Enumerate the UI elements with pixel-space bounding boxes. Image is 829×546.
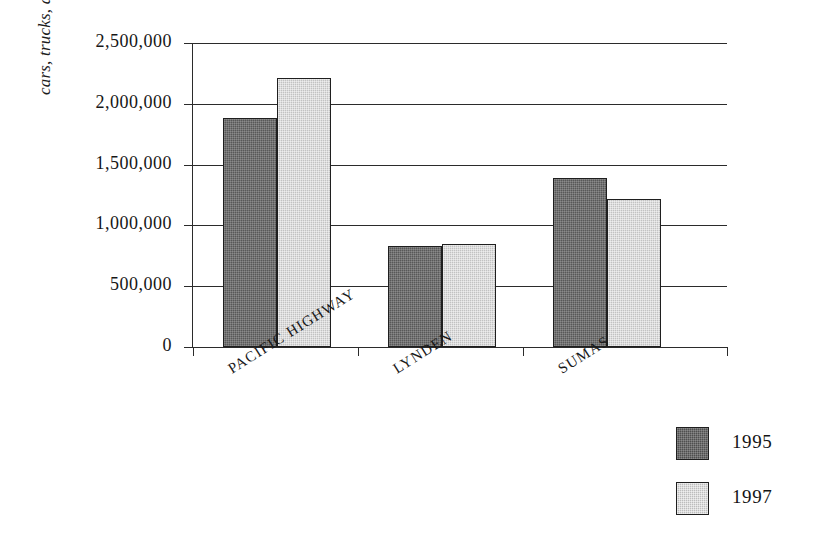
bar-1995-pacific-highway xyxy=(223,118,277,347)
bar-1997-lynden xyxy=(442,244,496,347)
bar-1995-lynden xyxy=(388,246,442,347)
x-tick-mark xyxy=(523,347,524,356)
y-tick-label: 500,000 xyxy=(110,274,172,295)
bar-1997-sumas xyxy=(607,199,661,347)
y-tick-mark xyxy=(184,286,193,287)
y-tick-mark xyxy=(184,225,193,226)
legend-swatch-1995 xyxy=(676,427,709,460)
legend-label-1997: 1997 xyxy=(732,486,772,508)
gridline xyxy=(193,104,727,105)
legend-item-1995[interactable]: 1995 xyxy=(676,427,826,482)
legend-item-1997[interactable]: 1997 xyxy=(676,482,826,537)
x-tick-mark xyxy=(358,347,359,356)
legend: 19951997 xyxy=(676,427,826,537)
y-tick-label: 0 xyxy=(163,335,173,356)
legend-swatch-1997 xyxy=(676,482,709,515)
chart-page: cars, trucks, and buses 0500,0001,000,00… xyxy=(0,0,829,546)
bar-1995-sumas xyxy=(553,178,607,347)
y-tick-mark xyxy=(184,43,193,44)
y-tick-mark xyxy=(184,165,193,166)
y-tick-label: 1,500,000 xyxy=(96,153,173,174)
y-tick-mark xyxy=(184,104,193,105)
y-tick-label: 1,000,000 xyxy=(96,213,173,234)
plot-area: 0500,0001,000,0001,500,0002,000,0002,500… xyxy=(193,43,727,347)
x-tick-mark xyxy=(727,347,728,356)
y-tick-label: 2,000,000 xyxy=(96,92,173,113)
y-tick-mark xyxy=(184,347,193,348)
gridline xyxy=(193,43,727,44)
x-tick-mark xyxy=(193,347,194,356)
y-tick-label: 2,500,000 xyxy=(96,31,173,52)
y-axis-line xyxy=(192,43,193,348)
y-axis-title: cars, trucks, and buses xyxy=(30,0,60,130)
legend-label-1995: 1995 xyxy=(732,431,772,453)
